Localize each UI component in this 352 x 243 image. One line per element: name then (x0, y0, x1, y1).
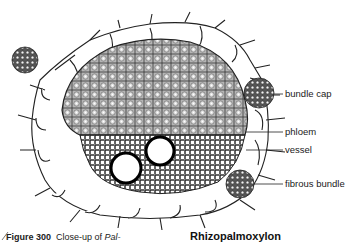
caption-text: Close-up of (56, 232, 105, 242)
label-bundle-cap: bundle cap (285, 89, 331, 99)
figure-number: Figure 300 (6, 232, 51, 242)
vessel-right (146, 137, 174, 165)
caption-italic-text: Pal- (105, 232, 121, 242)
label-phloem: phloem (285, 127, 316, 137)
fibrous-bundle-bundle-cap (244, 78, 274, 108)
vessel-left (111, 153, 141, 183)
figure-caption: Figure 300 Close-up of Pal- (6, 232, 121, 242)
vascular-bundle-illustration (0, 0, 352, 243)
fibrous-bundle-lower (226, 170, 254, 198)
label-fibrous-bundle: fibrous bundle (285, 179, 345, 189)
genus-heading: Rhizopalmoxylon (190, 230, 281, 242)
fibrous-bundle-left (12, 47, 38, 73)
label-vessel: vessel (285, 145, 312, 155)
